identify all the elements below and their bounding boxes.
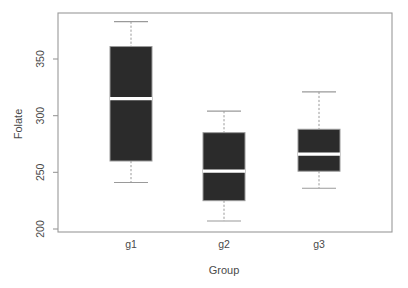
x-axis: g1g2g3 [125, 238, 325, 250]
x-tick-label-g1: g1 [125, 238, 137, 250]
box-iqr [110, 47, 152, 161]
boxplot-canvas: 200250300350 g1g2g3 Folate Group [0, 0, 408, 288]
x-tick-label-g3: g3 [313, 238, 325, 250]
y-tick-label: 250 [34, 163, 46, 181]
boxplot-g2 [203, 111, 245, 221]
y-tick-label: 300 [34, 107, 46, 125]
x-axis-title: Group [209, 264, 240, 276]
boxplot-figure: 200250300350 g1g2g3 Folate Group [0, 0, 408, 288]
y-tick-label: 200 [34, 220, 46, 238]
y-tick-label: 350 [34, 50, 46, 68]
box-iqr [298, 129, 340, 171]
y-axis-title: Folate [12, 109, 24, 140]
boxplot-g3 [298, 92, 340, 188]
box-series [110, 22, 340, 221]
boxplot-g1 [110, 22, 152, 183]
box-iqr [203, 133, 245, 201]
x-tick-label-g2: g2 [218, 238, 230, 250]
y-axis: 200250300350 [34, 50, 58, 238]
